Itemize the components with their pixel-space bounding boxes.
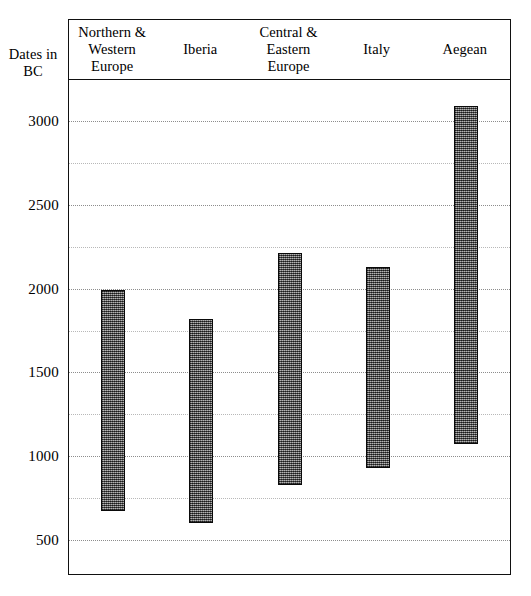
range-bar xyxy=(278,253,302,484)
category-header-row: Northern & Western EuropeIberiaCentral &… xyxy=(68,19,511,80)
gridline-minor xyxy=(69,247,510,248)
range-bar xyxy=(366,267,390,468)
y-axis-tick-label: 500 xyxy=(5,533,59,548)
y-axis-tick-label: 2500 xyxy=(5,198,59,213)
y-axis-tick-label: 1500 xyxy=(5,365,59,380)
y-axis-title: Dates in BC xyxy=(2,46,64,80)
category-header-cell: Italy xyxy=(333,41,421,58)
gridline-major xyxy=(69,540,510,541)
category-header-cell: Aegean xyxy=(421,41,509,58)
plot-area xyxy=(69,81,510,574)
range-bar xyxy=(454,106,478,445)
gridline-minor xyxy=(69,163,510,164)
range-bar xyxy=(101,290,125,511)
figure-caption xyxy=(6,580,525,596)
category-header-cell: Central & Eastern Europe xyxy=(244,24,332,75)
y-axis-tick-label: 3000 xyxy=(5,114,59,129)
gridline-minor xyxy=(69,498,510,499)
chart-figure: Dates in BC Northern & Western EuropeIbe… xyxy=(0,0,531,596)
range-bar xyxy=(189,319,213,523)
y-axis-tick-label: 1000 xyxy=(5,449,59,464)
category-header-cell: Northern & Western Europe xyxy=(68,24,156,75)
gridline-major xyxy=(69,121,510,122)
gridline-major xyxy=(69,205,510,206)
y-axis-tick-label: 2000 xyxy=(5,282,59,297)
category-header-cell: Iberia xyxy=(156,41,244,58)
